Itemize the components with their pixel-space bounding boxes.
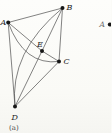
vertex-label-C: C [64,57,70,66]
vertex-dot-D [13,105,17,109]
edge-B-E [42,8,63,51]
vertex-label-D: D [11,113,19,122]
fragment-vertex-label-A: A [99,20,106,29]
vertex-dot-A [6,21,10,25]
edge-D-E [15,51,42,107]
vertex-dot-B [61,6,65,10]
vertex-dot-E [40,49,44,53]
k5-graph-figure: ABCDE A (a) [0,0,111,133]
adjacent-figure-fragment: A [99,20,112,29]
edge-A-C [8,23,59,62]
textbook-figure-page: ABCDE A (a) [0,0,111,133]
vertex-label-A: A [0,18,7,27]
vertex-label-E: E [36,40,43,49]
edges-layer [8,8,62,107]
fragment-vertex-dot-A [108,23,111,27]
edge-C-E [42,51,59,62]
edge-C-D [15,62,59,107]
figure-caption: (a) [9,124,19,132]
vertex-dot-C [57,60,61,64]
vertex-label-B: B [66,3,73,12]
edge-B-C [59,8,63,62]
